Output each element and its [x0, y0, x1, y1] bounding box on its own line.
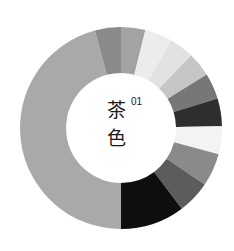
donut-chart-svg [0, 0, 234, 251]
donut-chart: 茶 色 01 [0, 0, 234, 251]
